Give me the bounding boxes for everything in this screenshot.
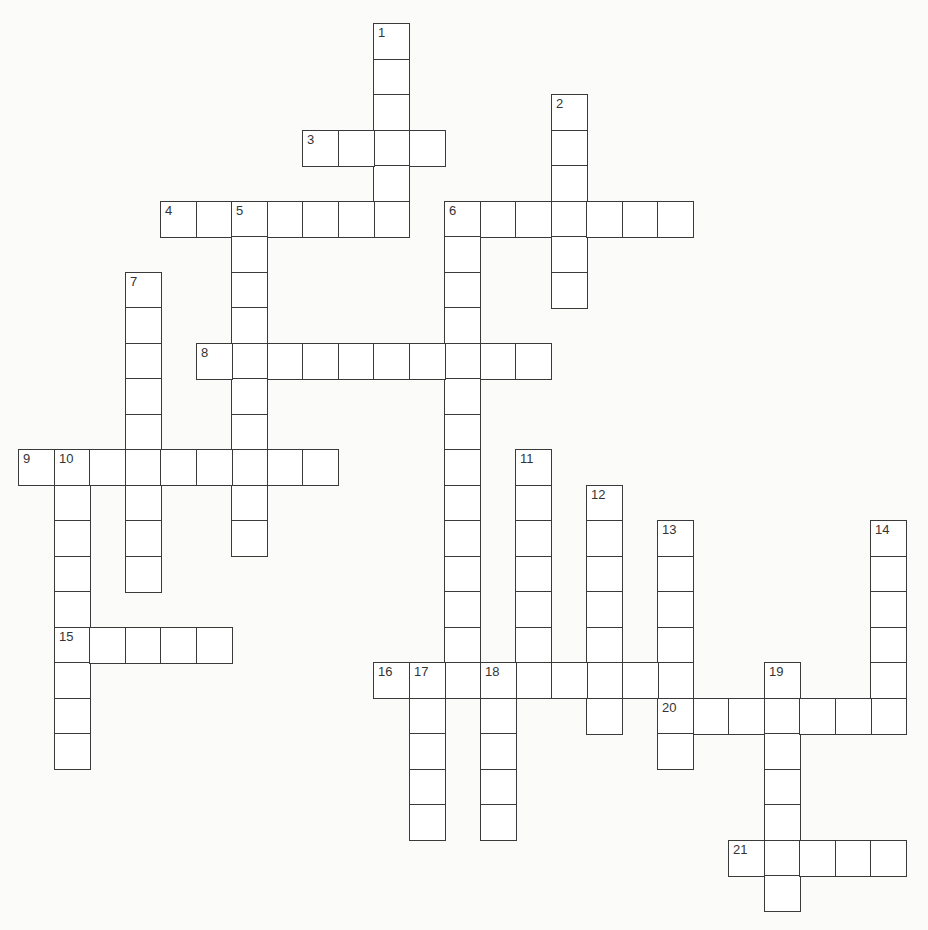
crossword-cell[interactable] <box>125 449 162 486</box>
crossword-cell[interactable] <box>657 662 694 699</box>
crossword-cell[interactable] <box>480 698 517 735</box>
crossword-cell[interactable] <box>480 804 517 841</box>
crossword-cell[interactable] <box>444 520 481 557</box>
crossword-cell[interactable]: 13 <box>657 520 694 557</box>
crossword-cell[interactable] <box>409 698 446 735</box>
crossword-cell[interactable] <box>409 343 446 380</box>
crossword-cell[interactable] <box>586 698 623 735</box>
crossword-cell[interactable] <box>835 698 872 735</box>
crossword-cell[interactable] <box>373 201 410 238</box>
crossword-cell[interactable] <box>444 556 481 593</box>
crossword-cell[interactable] <box>444 343 481 380</box>
crossword-cell[interactable] <box>551 236 588 273</box>
crossword-cell[interactable]: 11 <box>515 449 552 486</box>
crossword-cell[interactable] <box>196 449 233 486</box>
crossword-cell[interactable] <box>870 591 907 628</box>
crossword-cell[interactable] <box>160 449 197 486</box>
crossword-cell[interactable] <box>89 449 126 486</box>
crossword-cell[interactable] <box>551 272 588 309</box>
crossword-cell[interactable] <box>515 556 552 593</box>
crossword-cell[interactable] <box>551 130 588 167</box>
crossword-cell[interactable] <box>586 627 623 664</box>
crossword-cell[interactable] <box>657 627 694 664</box>
crossword-cell[interactable] <box>125 414 162 451</box>
crossword-cell[interactable] <box>373 130 410 167</box>
crossword-cell[interactable] <box>302 343 339 380</box>
crossword-cell[interactable] <box>764 875 801 912</box>
crossword-cell[interactable]: 16 <box>373 662 410 699</box>
crossword-cell[interactable]: 8 <box>196 343 233 380</box>
crossword-cell[interactable]: 7 <box>125 272 162 309</box>
crossword-cell[interactable] <box>444 662 481 699</box>
crossword-cell[interactable] <box>586 591 623 628</box>
crossword-cell[interactable] <box>231 520 268 557</box>
crossword-cell[interactable] <box>54 591 91 628</box>
crossword-cell[interactable] <box>444 627 481 664</box>
crossword-cell[interactable] <box>480 201 517 238</box>
crossword-cell[interactable] <box>515 520 552 557</box>
crossword-cell[interactable] <box>444 272 481 309</box>
crossword-cell[interactable] <box>622 662 659 699</box>
crossword-cell[interactable] <box>338 130 375 167</box>
crossword-cell[interactable] <box>515 591 552 628</box>
crossword-cell[interactable] <box>267 343 304 380</box>
crossword-cell[interactable] <box>657 733 694 770</box>
crossword-cell[interactable] <box>764 804 801 841</box>
crossword-cell[interactable] <box>54 662 91 699</box>
crossword-cell[interactable]: 4 <box>160 201 197 238</box>
crossword-cell[interactable]: 20 <box>657 698 694 735</box>
crossword-cell[interactable] <box>54 698 91 735</box>
crossword-cell[interactable]: 15 <box>54 627 91 664</box>
crossword-cell[interactable] <box>480 769 517 806</box>
crossword-cell[interactable] <box>125 307 162 344</box>
crossword-cell[interactable] <box>586 556 623 593</box>
crossword-cell[interactable]: 5 <box>231 201 268 238</box>
crossword-cell[interactable] <box>764 698 801 735</box>
crossword-cell[interactable] <box>54 733 91 770</box>
crossword-cell[interactable]: 1 <box>373 23 410 60</box>
crossword-cell[interactable] <box>231 414 268 451</box>
crossword-cell[interactable] <box>551 165 588 202</box>
crossword-cell[interactable] <box>586 201 623 238</box>
crossword-cell[interactable] <box>870 627 907 664</box>
crossword-cell[interactable] <box>231 485 268 522</box>
crossword-cell[interactable] <box>551 201 588 238</box>
crossword-cell[interactable] <box>196 201 233 238</box>
crossword-cell[interactable] <box>409 804 446 841</box>
crossword-cell[interactable] <box>125 378 162 415</box>
crossword-cell[interactable]: 19 <box>764 662 801 699</box>
crossword-cell[interactable] <box>231 449 268 486</box>
crossword-cell[interactable]: 17 <box>409 662 446 699</box>
crossword-cell[interactable] <box>444 307 481 344</box>
crossword-cell[interactable]: 12 <box>586 485 623 522</box>
crossword-cell[interactable] <box>551 662 588 699</box>
crossword-cell[interactable] <box>728 698 765 735</box>
crossword-cell[interactable] <box>444 236 481 273</box>
crossword-cell[interactable] <box>231 272 268 309</box>
crossword-cell[interactable]: 21 <box>728 840 765 877</box>
crossword-cell[interactable]: 9 <box>18 449 55 486</box>
crossword-cell[interactable]: 14 <box>870 520 907 557</box>
crossword-cell[interactable] <box>870 698 907 735</box>
crossword-cell[interactable] <box>54 485 91 522</box>
crossword-cell[interactable] <box>657 201 694 238</box>
crossword-cell[interactable] <box>515 343 552 380</box>
crossword-cell[interactable] <box>799 840 836 877</box>
crossword-cell[interactable] <box>835 840 872 877</box>
crossword-cell[interactable] <box>125 485 162 522</box>
crossword-cell[interactable] <box>338 201 375 238</box>
crossword-cell[interactable] <box>54 556 91 593</box>
crossword-cell[interactable] <box>196 627 233 664</box>
crossword-cell[interactable] <box>409 130 446 167</box>
crossword-cell[interactable] <box>409 769 446 806</box>
crossword-cell[interactable] <box>89 627 126 664</box>
crossword-cell[interactable] <box>444 414 481 451</box>
crossword-cell[interactable] <box>444 378 481 415</box>
crossword-cell[interactable] <box>870 556 907 593</box>
crossword-cell[interactable] <box>764 733 801 770</box>
crossword-cell[interactable] <box>373 94 410 131</box>
crossword-cell[interactable] <box>693 698 730 735</box>
crossword-cell[interactable]: 10 <box>54 449 91 486</box>
crossword-cell[interactable] <box>125 343 162 380</box>
crossword-cell[interactable] <box>515 485 552 522</box>
